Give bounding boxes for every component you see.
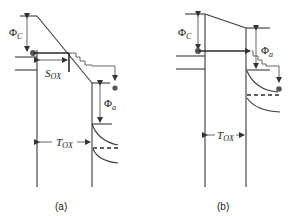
conduction-band-bending-b bbox=[247, 71, 278, 92]
phi-a-label-a: Φa bbox=[104, 97, 116, 112]
panel-a: ΦC SOX Φa TOX (a) bbox=[9, 16, 119, 212]
panel-b: ΦC Φa TOX (b) bbox=[176, 14, 282, 212]
energy-band-diagram: ΦC SOX Φa TOX (a) bbox=[0, 0, 291, 216]
t-ox-label-a: TOX bbox=[56, 136, 74, 150]
electron-dot-anode-b bbox=[276, 86, 282, 92]
conduction-band-bending-a bbox=[92, 124, 118, 145]
phi-c-label-a: ΦC bbox=[9, 26, 23, 41]
t-ox-label-b: TOX bbox=[217, 129, 235, 143]
phi-a-label-b: Φa bbox=[261, 44, 273, 59]
electron-dot-anode-a bbox=[112, 85, 117, 90]
panel-label-b: (b) bbox=[217, 201, 229, 212]
energy-relaxation-staircase-a bbox=[69, 53, 115, 80]
oxide-conduction-band-b bbox=[205, 14, 246, 28]
valence-band-bending-b bbox=[247, 98, 280, 112]
phi-c-label-b: ΦC bbox=[178, 26, 192, 41]
s-ox-label-a: SOX bbox=[45, 67, 62, 81]
valence-band-bending-a bbox=[93, 149, 118, 163]
panel-label-a: (a) bbox=[55, 201, 67, 212]
